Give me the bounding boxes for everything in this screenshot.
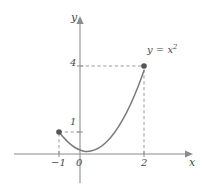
curve-equation-label: y = x2 xyxy=(147,44,177,55)
data-point-two-four xyxy=(141,63,147,69)
guide-lines xyxy=(59,66,144,154)
x-tick-label-neg-one: −1 xyxy=(51,158,66,168)
parabola-curve xyxy=(59,70,144,151)
data-point-neg-one-one xyxy=(56,129,62,135)
y-tick-label-one: 1 xyxy=(70,117,76,127)
tick-marks xyxy=(59,66,144,157)
x-tick-label-two: 2 xyxy=(141,158,147,168)
plot-canvas xyxy=(0,0,203,195)
y-axis-label: y xyxy=(71,12,77,23)
parabola-figure: y x y = x2 −1 0 2 1 4 xyxy=(0,0,203,195)
x-axis xyxy=(14,150,193,157)
curve-equation-base: y = x xyxy=(147,44,173,55)
y-tick-label-four: 4 xyxy=(70,58,76,68)
y-axis-arrowhead xyxy=(76,16,83,24)
origin-label: 0 xyxy=(76,158,82,168)
curve-equation-exponent: 2 xyxy=(173,43,177,51)
x-axis-label: x xyxy=(189,157,195,168)
